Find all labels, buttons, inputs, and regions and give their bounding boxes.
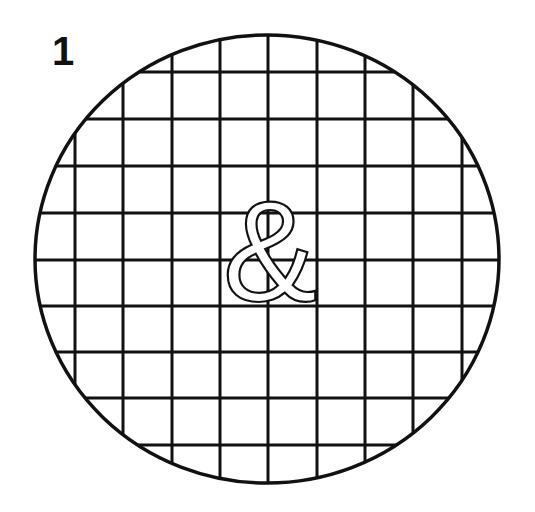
ampersand-symbol: & xyxy=(223,172,318,331)
grid-circle-diagram: & xyxy=(0,0,535,512)
